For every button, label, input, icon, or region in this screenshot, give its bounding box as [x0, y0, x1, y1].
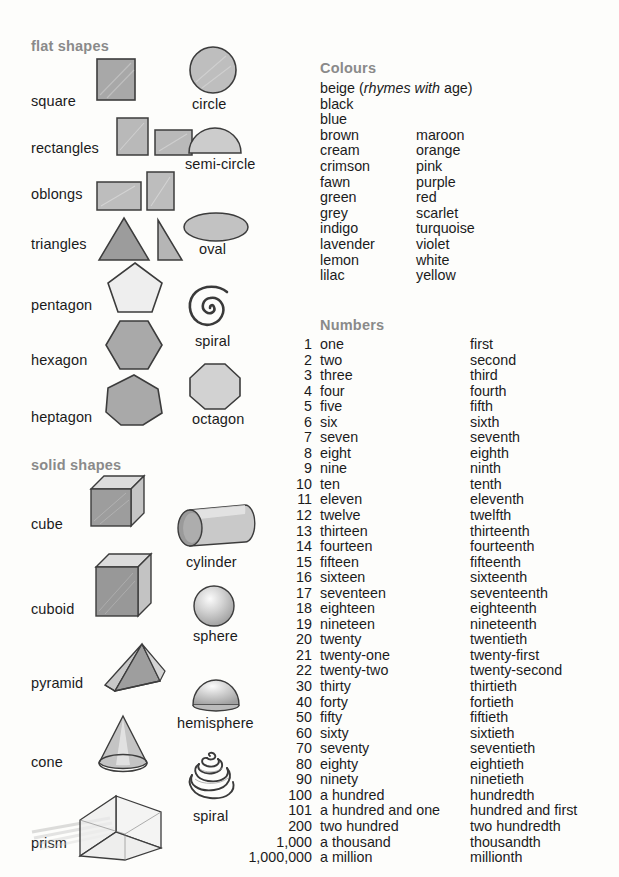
pyramid-shape [102, 641, 168, 697]
number-ordinal: eighteenth [470, 601, 537, 617]
number-row: 22twenty-twotwenty-second [240, 663, 577, 679]
number-cardinal: nineteen [320, 617, 470, 633]
number-ordinal: twelfth [470, 508, 511, 524]
number-row: 1onefirst [240, 337, 577, 353]
number-ordinal: sixteenth [470, 570, 527, 586]
number-cardinal: seventeen [320, 586, 470, 602]
number-row: 1,000,000a millionmillionth [240, 850, 577, 866]
number-cardinal: fourteen [320, 539, 470, 555]
colour-row: fawnpurple [320, 175, 475, 191]
spiral-flat-shape [183, 283, 237, 333]
number-cardinal: two [320, 353, 470, 369]
colour-name-right: white [416, 253, 449, 269]
colour-name-right: red [416, 190, 437, 206]
number-cardinal: a thousand [320, 835, 470, 851]
shape-label-oblongs: oblongs [31, 186, 83, 202]
cone-shape [92, 713, 154, 775]
number-figure: 6 [240, 415, 320, 431]
colours-section: Colours beige (rhymes with age)blackblue… [320, 60, 475, 284]
number-figure: 5 [240, 399, 320, 415]
number-ordinal: fourteenth [470, 539, 534, 555]
colour-name-right: violet [416, 237, 449, 253]
number-cardinal: ten [320, 477, 470, 493]
number-figure: 2 [240, 353, 320, 369]
number-figure: 100 [240, 788, 320, 804]
number-figure: 1,000,000 [240, 850, 320, 866]
colour-name-right: yellow [416, 268, 456, 284]
number-cardinal: fifty [320, 710, 470, 726]
number-row: 5fivefifth [240, 399, 577, 415]
flat-shapes-heading: flat shapes [31, 38, 109, 54]
number-cardinal: eleven [320, 492, 470, 508]
number-figure: 19 [240, 617, 320, 633]
number-row: 13thirteenthirteenth [240, 524, 577, 540]
colour-name-left: fawn [320, 175, 416, 191]
number-ordinal: thousandth [470, 835, 541, 851]
number-row: 15fifteenfifteenth [240, 555, 577, 571]
shape-label-hexagon: hexagon [31, 352, 87, 368]
hemisphere-shape [189, 676, 243, 714]
colour-row: beige (rhymes with age) [320, 81, 475, 97]
number-cardinal: fifteen [320, 555, 470, 571]
number-row: 12twelvetwelfth [240, 508, 577, 524]
number-figure: 14 [240, 539, 320, 555]
spiral-solid-shape [183, 748, 241, 806]
pentagon-shape [105, 260, 165, 316]
number-ordinal: nineteenth [470, 617, 537, 633]
prism-shape [30, 790, 196, 862]
number-ordinal: seventieth [470, 741, 535, 757]
shape-label-semi-circle: semi-circle [185, 156, 255, 172]
number-figure: 21 [240, 648, 320, 664]
sphere-shape [190, 583, 238, 629]
number-ordinal: fiftieth [470, 710, 508, 726]
number-ordinal: seventeenth [470, 586, 548, 602]
colour-name-left: crimson [320, 159, 416, 175]
number-ordinal: sixth [470, 415, 499, 431]
colour-name-right: turquoise [416, 221, 475, 237]
number-figure: 11 [240, 492, 320, 508]
shape-label-spiral-solid: spiral [193, 808, 228, 824]
number-figure: 10 [240, 477, 320, 493]
number-ordinal: second [470, 353, 516, 369]
colour-row: lilacyellow [320, 268, 475, 284]
triangles-shape [96, 215, 186, 263]
colour-name-left: indigo [320, 221, 416, 237]
number-cardinal: seven [320, 430, 470, 446]
number-row: 19nineteennineteenth [240, 617, 577, 633]
number-cardinal: thirty [320, 679, 470, 695]
shape-label-pentagon: pentagon [31, 297, 92, 313]
number-ordinal: ninetieth [470, 772, 524, 788]
number-cardinal: six [320, 415, 470, 431]
number-ordinal: fifteenth [470, 555, 521, 571]
number-ordinal: twenty-first [470, 648, 539, 664]
colour-row: greenred [320, 190, 475, 206]
shape-label-sphere: sphere [193, 628, 238, 644]
number-cardinal: two hundred [320, 819, 470, 835]
number-row: 16sixteensixteenth [240, 570, 577, 586]
number-cardinal: eighty [320, 757, 470, 773]
number-ordinal: twentieth [470, 632, 527, 648]
shape-label-cone: cone [31, 754, 63, 770]
number-figure: 200 [240, 819, 320, 835]
number-figure: 20 [240, 632, 320, 648]
solid-shapes-heading: solid shapes [31, 457, 121, 473]
number-ordinal: fortieth [470, 695, 514, 711]
number-cardinal: three [320, 368, 470, 384]
number-ordinal: two hundredth [470, 819, 561, 835]
number-cardinal: ninety [320, 772, 470, 788]
colour-row: greyscarlet [320, 206, 475, 222]
number-figure: 90 [240, 772, 320, 788]
number-cardinal: nine [320, 461, 470, 477]
number-figure: 17 [240, 586, 320, 602]
colour-name-left: lemon [320, 253, 416, 269]
colour-row: brownmaroon [320, 128, 475, 144]
number-row: 3threethird [240, 368, 577, 384]
number-figure: 50 [240, 710, 320, 726]
number-figure: 1 [240, 337, 320, 353]
number-ordinal: tenth [470, 477, 502, 493]
number-figure: 60 [240, 726, 320, 742]
colour-name-right: maroon [416, 128, 464, 144]
number-row: 40fortyfortieth [240, 695, 577, 711]
colour-name-left: beige (rhymes with age) [320, 81, 473, 97]
colour-name-right: orange [416, 143, 461, 159]
